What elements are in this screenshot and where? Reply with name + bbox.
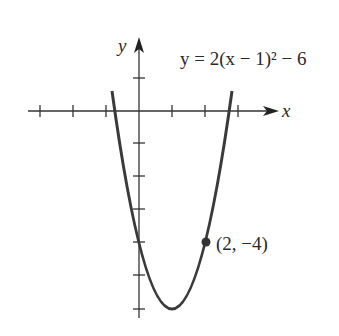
point-label: (2, −4): [216, 233, 268, 255]
y-axis-label: y: [116, 35, 127, 56]
point-marker: [202, 238, 211, 247]
equation-label: y = 2(x − 1)² − 6: [180, 48, 307, 70]
parabola-curve: [112, 91, 232, 309]
x-axis-label: x: [281, 100, 291, 121]
parabola-graph: x y y = 2(x − 1)² − 6 (2, −4): [0, 0, 339, 336]
y-axis: y: [116, 35, 145, 318]
x-axis: x: [28, 100, 291, 121]
